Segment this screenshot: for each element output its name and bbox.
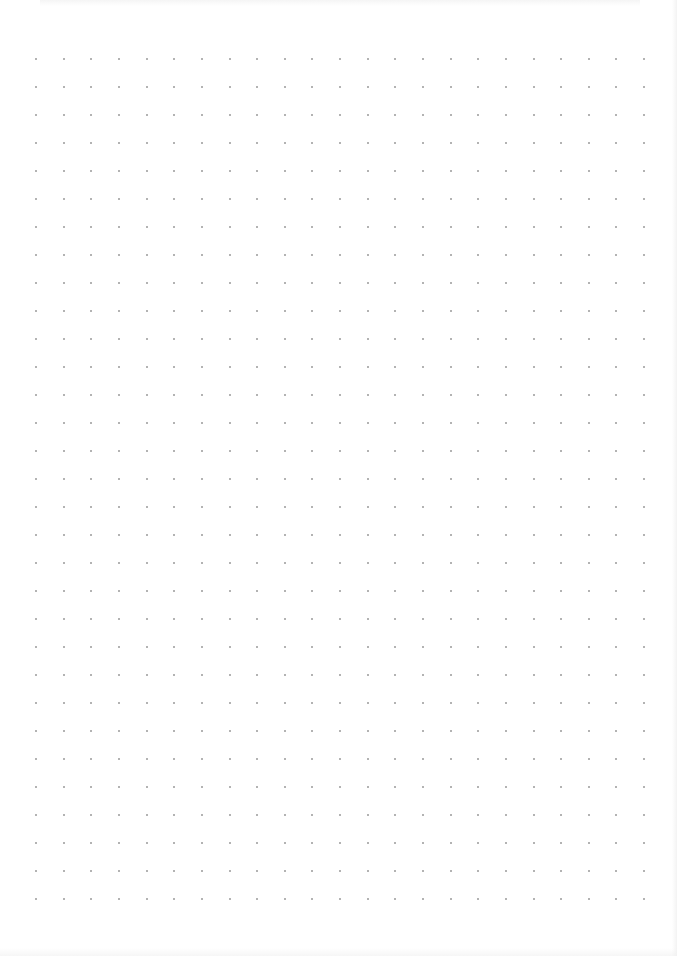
grid-dot bbox=[311, 86, 313, 88]
grid-dot bbox=[173, 702, 175, 704]
grid-dot bbox=[560, 758, 562, 760]
grid-dot bbox=[63, 562, 65, 564]
grid-dot bbox=[588, 422, 590, 424]
grid-dot bbox=[615, 450, 617, 452]
grid-dot bbox=[256, 506, 258, 508]
grid-dot bbox=[394, 114, 396, 116]
grid-dot bbox=[615, 422, 617, 424]
grid-dot bbox=[229, 898, 231, 900]
grid-dot bbox=[256, 758, 258, 760]
grid-dot bbox=[173, 758, 175, 760]
grid-dot bbox=[284, 506, 286, 508]
grid-dot bbox=[505, 646, 507, 648]
grid-dot bbox=[118, 786, 120, 788]
grid-dot bbox=[256, 86, 258, 88]
grid-dot bbox=[533, 58, 535, 60]
grid-dot bbox=[90, 870, 92, 872]
grid-dot bbox=[367, 814, 369, 816]
grid-dot bbox=[394, 394, 396, 396]
grid-dot bbox=[284, 198, 286, 200]
grid-dot bbox=[477, 310, 479, 312]
grid-dot bbox=[367, 702, 369, 704]
grid-dot bbox=[367, 142, 369, 144]
grid-dot bbox=[643, 646, 645, 648]
grid-dot bbox=[146, 898, 148, 900]
grid-dot bbox=[90, 590, 92, 592]
grid-dot bbox=[588, 870, 590, 872]
grid-dot bbox=[560, 870, 562, 872]
grid-dot bbox=[339, 646, 341, 648]
grid-dot bbox=[35, 478, 37, 480]
grid-dot bbox=[560, 310, 562, 312]
grid-dot bbox=[422, 170, 424, 172]
grid-dot bbox=[118, 478, 120, 480]
grid-dot bbox=[615, 730, 617, 732]
grid-dot bbox=[422, 142, 424, 144]
grid-dot bbox=[394, 422, 396, 424]
grid-dot bbox=[229, 618, 231, 620]
grid-dot bbox=[201, 170, 203, 172]
grid-dot bbox=[394, 562, 396, 564]
grid-dot bbox=[367, 730, 369, 732]
grid-dot bbox=[284, 86, 286, 88]
grid-dot bbox=[90, 338, 92, 340]
grid-dot bbox=[173, 198, 175, 200]
grid-dot bbox=[284, 870, 286, 872]
grid-dot bbox=[477, 198, 479, 200]
grid-dot bbox=[146, 870, 148, 872]
grid-dot bbox=[588, 590, 590, 592]
grid-dot bbox=[284, 702, 286, 704]
grid-dot bbox=[533, 618, 535, 620]
grid-dot bbox=[118, 450, 120, 452]
grid-dot bbox=[201, 226, 203, 228]
grid-dot bbox=[146, 450, 148, 452]
grid-dot bbox=[477, 58, 479, 60]
grid-dot bbox=[63, 478, 65, 480]
grid-dot bbox=[256, 58, 258, 60]
grid-dot bbox=[643, 282, 645, 284]
grid-dot bbox=[311, 646, 313, 648]
grid-dot bbox=[63, 702, 65, 704]
grid-dot bbox=[560, 170, 562, 172]
grid-dot bbox=[173, 170, 175, 172]
grid-dot bbox=[311, 870, 313, 872]
grid-dot bbox=[35, 198, 37, 200]
grid-dot bbox=[90, 422, 92, 424]
grid-dot bbox=[643, 870, 645, 872]
grid-dot bbox=[367, 422, 369, 424]
grid-dot bbox=[35, 702, 37, 704]
grid-dot bbox=[201, 898, 203, 900]
grid-dot bbox=[422, 590, 424, 592]
grid-dot bbox=[284, 170, 286, 172]
grid-dot bbox=[394, 198, 396, 200]
grid-dot bbox=[450, 730, 452, 732]
grid-dot bbox=[35, 646, 37, 648]
grid-dot bbox=[229, 310, 231, 312]
grid-dot bbox=[643, 422, 645, 424]
grid-dot bbox=[339, 58, 341, 60]
grid-dot bbox=[256, 478, 258, 480]
grid-dot bbox=[256, 730, 258, 732]
grid-dot bbox=[588, 310, 590, 312]
grid-dot bbox=[615, 366, 617, 368]
grid-dot bbox=[505, 506, 507, 508]
grid-dot bbox=[201, 646, 203, 648]
grid-dot bbox=[90, 618, 92, 620]
grid-dot bbox=[643, 758, 645, 760]
grid-dot bbox=[201, 450, 203, 452]
grid-dot bbox=[560, 534, 562, 536]
grid-dot bbox=[643, 562, 645, 564]
grid-dot bbox=[256, 114, 258, 116]
grid-dot bbox=[339, 310, 341, 312]
grid-dot bbox=[394, 506, 396, 508]
grid-dot bbox=[339, 898, 341, 900]
grid-dot bbox=[477, 422, 479, 424]
grid-dot bbox=[505, 534, 507, 536]
grid-dot bbox=[173, 730, 175, 732]
grid-dot bbox=[615, 394, 617, 396]
grid-dot bbox=[311, 310, 313, 312]
grid-dot bbox=[367, 478, 369, 480]
grid-dot bbox=[615, 618, 617, 620]
grid-dot bbox=[146, 198, 148, 200]
grid-dot bbox=[339, 254, 341, 256]
